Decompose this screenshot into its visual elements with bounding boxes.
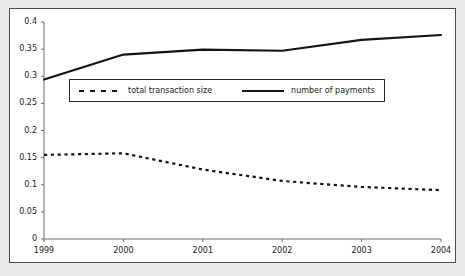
dashed-line-swatch-icon — [79, 86, 121, 96]
y-tick-label: 0.25 — [10, 99, 37, 107]
chart-legend: total transaction size number of payment… — [69, 79, 385, 102]
x-tick-label: 1999 — [34, 247, 54, 255]
y-tick-label: 0.4 — [10, 18, 37, 26]
legend-entry-total-transaction-size: total transaction size — [79, 86, 212, 96]
legend-label-total-transaction-size: total transaction size — [128, 87, 212, 95]
solid-line-swatch-icon — [242, 86, 284, 96]
y-tick-label: 0.3 — [10, 72, 37, 80]
chart-figure: 00.050.10.150.20.250.30.350.4 1999200020… — [0, 0, 465, 276]
x-tick-label: 2004 — [431, 247, 451, 255]
series-line-total-transaction-size — [44, 153, 441, 190]
y-tick-label: 0.1 — [10, 181, 37, 189]
legend-entry-number-of-payments: number of payments — [242, 86, 375, 96]
chart-frame: 00.050.10.150.20.250.30.350.4 1999200020… — [9, 8, 456, 263]
y-tick-label: 0.05 — [10, 208, 37, 216]
series-line-number-of-payments — [44, 35, 441, 79]
y-tick-label: 0.2 — [10, 127, 37, 135]
x-tick-label: 2002 — [272, 247, 292, 255]
x-tick-label: 2000 — [113, 247, 133, 255]
legend-label-number-of-payments: number of payments — [291, 87, 375, 95]
y-tick-label: 0.15 — [10, 154, 37, 162]
x-tick-label: 2001 — [193, 247, 213, 255]
line-chart-plot — [10, 9, 457, 264]
y-tick-label: 0.35 — [10, 45, 37, 53]
x-tick-label: 2003 — [351, 247, 371, 255]
y-tick-label: 0 — [10, 235, 37, 243]
